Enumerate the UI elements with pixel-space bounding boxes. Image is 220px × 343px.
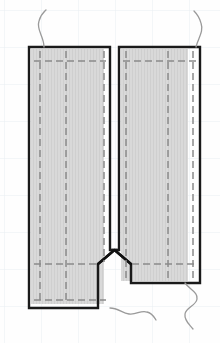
- right-panel-fill: [121, 49, 188, 281]
- pattern-diagram-root: [0, 0, 220, 343]
- left-panel-fill: [31, 49, 104, 304]
- pattern-svg: [0, 0, 220, 343]
